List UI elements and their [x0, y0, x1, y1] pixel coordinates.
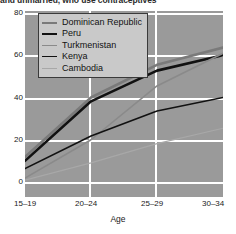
legend-label: Peru: [62, 28, 81, 39]
y-tick-label: 0: [1, 177, 23, 186]
legend-item[interactable]: Cambodia: [42, 63, 142, 74]
legend-swatch-turkmenistan: [42, 45, 57, 46]
y-tick-label: 20: [1, 135, 23, 144]
x-tick-label: 25–29: [141, 199, 163, 208]
legend-item[interactable]: Kenya: [42, 51, 142, 62]
chart-title: and unmarried, who use contraceptives: [0, 0, 236, 7]
x-tick-label: 20–24: [75, 199, 97, 208]
chart-figure: and unmarried, who use contraceptives 80…: [0, 0, 236, 234]
x-axis-ticks: 15–19 20–24 25–29 30–34: [0, 199, 236, 211]
legend-item[interactable]: Peru: [42, 28, 142, 39]
x-tick-label: 30–34: [202, 199, 224, 208]
legend-swatch-peru: [42, 33, 57, 35]
y-tick-label: 60: [1, 50, 23, 59]
legend-label: Cambodia: [62, 63, 103, 74]
legend-label: Kenya: [62, 51, 88, 62]
y-tick-label: 80: [1, 8, 23, 17]
legend-swatch-kenya: [42, 56, 57, 57]
chart-legend: Dominican Republic Peru Turkmenistan Ken…: [38, 13, 148, 78]
legend-swatch-cambodia: [42, 68, 57, 69]
x-tick-label: 15–19: [14, 199, 36, 208]
legend-item[interactable]: Dominican Republic: [42, 17, 142, 28]
legend-label: Turkmenistan: [62, 40, 116, 51]
legend-label: Dominican Republic: [62, 17, 142, 28]
x-axis-label: Age: [0, 214, 236, 224]
y-tick-label: 40: [1, 93, 23, 102]
legend-item[interactable]: Turkmenistan: [42, 40, 142, 51]
legend-swatch-dominican-republic: [42, 22, 57, 24]
